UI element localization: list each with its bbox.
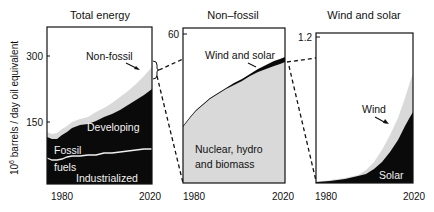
connector-top-1	[159, 59, 183, 70]
connector-bottom-1	[157, 76, 183, 183]
y-tick-300: 300	[26, 51, 43, 62]
connector-bottom-2	[289, 66, 316, 181]
panel-non-fossil: Non–fossil 60 1980 2020 Wind and solar N…	[168, 9, 295, 202]
x-tick-2020: 2020	[139, 191, 162, 202]
panel-title-wind-and-solar: Wind and solar	[327, 9, 401, 21]
figure: 106 barrels / day oil equivalent Total e…	[0, 0, 434, 212]
y-tick-150: 150	[26, 117, 43, 128]
label-fuels: fuels	[54, 161, 76, 173]
panel-total-energy: Total energy 300 150 1980 2020 Non-fossi…	[26, 9, 161, 202]
label-wind-and-solar: Wind and solar	[205, 49, 276, 61]
y-tick-60: 60	[168, 29, 180, 40]
label-biomass: and biomass	[195, 158, 255, 170]
label-fossil: Fossil	[54, 144, 81, 156]
x-tick-1980: 1980	[51, 191, 74, 202]
x-tick-2020: 2020	[272, 191, 295, 202]
panel-title-non-fossil: Non–fossil	[207, 9, 258, 21]
panel-wind-and-solar: Wind and solar 1.2 1980 2020 Wind Solar	[298, 9, 425, 202]
x-tick-1980: 1980	[315, 191, 338, 202]
x-tick-1980: 1980	[183, 191, 206, 202]
y-axis-label: 106 barrels / day oil equivalent	[8, 41, 20, 175]
label-industrialized: Industrialized	[76, 172, 138, 184]
label-nuclear-hydro: Nuclear, hydro	[195, 143, 263, 155]
label-solar: Solar	[379, 169, 404, 181]
brace-non-fossil	[153, 61, 159, 79]
panel-title-total-energy: Total energy	[70, 9, 130, 21]
label-non-fossil: Non-fossil	[86, 50, 133, 62]
label-developing: Developing	[87, 121, 140, 133]
arrow-wind-solar	[248, 63, 256, 67]
connector-top-2	[287, 58, 316, 62]
x-tick-2020: 2020	[403, 191, 426, 202]
label-wind: Wind	[362, 103, 386, 115]
y-tick-1-2: 1.2	[298, 32, 312, 43]
